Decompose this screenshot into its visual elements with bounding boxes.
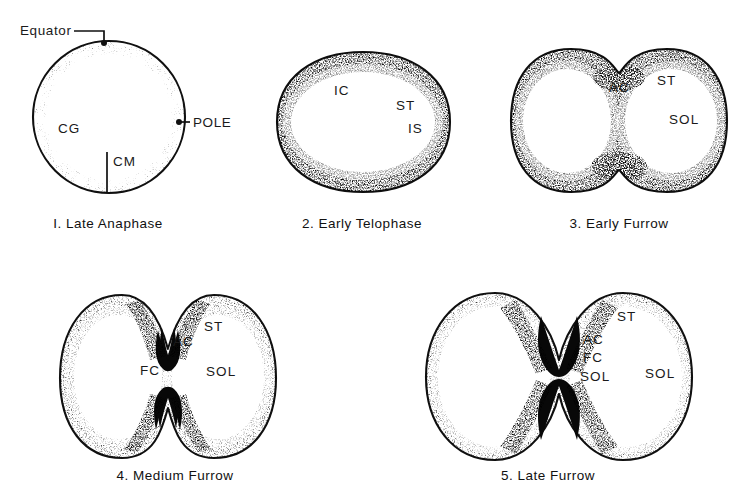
panel-5-caption: 5. Late Furrow (501, 468, 595, 483)
panel-3-label-sol: SOL (669, 112, 699, 127)
equator-anchor-dot (101, 40, 107, 46)
panel-2: IC ST IS 2. Early Telophase (270, 45, 460, 231)
panel-2-cortical-stipple (270, 45, 460, 200)
panel-1-cortical-stipple (33, 41, 185, 193)
equator-label: Equator (20, 23, 71, 38)
pole-anchor-dot (176, 119, 182, 125)
panel-5-label-sol-inner: SOL (580, 369, 610, 384)
panel-1-label-cm: CM (113, 154, 136, 169)
panel-5-label-ac: AC (583, 332, 604, 347)
panel-3: AC ST SOL 3. Early Furrow (505, 42, 735, 231)
panel-3-cortical-stipple (505, 42, 735, 200)
equator-leader-line (74, 31, 104, 42)
panel-1-caption: I. Late Anaphase (53, 216, 162, 231)
panel-4-caption: 4. Medium Furrow (117, 468, 234, 483)
panel-2-caption: 2. Early Telophase (302, 216, 422, 231)
panel-5-label-sol-outer: SOL (645, 366, 675, 381)
panel-3-caption: 3. Early Furrow (569, 216, 668, 231)
panel-4-label-ac: AC (173, 334, 194, 349)
panel-3-label-ac: AC (609, 80, 630, 95)
panel-5: ST AC FC SOL SOL 5. Late Furrow (420, 286, 698, 483)
panel-1-label-cg: CG (58, 121, 80, 136)
panel-5-label-st: ST (617, 309, 636, 324)
pole-label: POLE (193, 115, 231, 130)
panel-1: Equator POLE CG CM I. Late Anaphase (20, 23, 231, 231)
panel-4-label-fc: FC (140, 363, 160, 378)
figure-canvas: Equator POLE CG CM I. Late Anaphase IC (0, 0, 742, 502)
cytokinesis-figure: Equator POLE CG CM I. Late Anaphase IC (0, 0, 742, 502)
panel-4-label-sol: SOL (206, 364, 236, 379)
panel-5-label-fc: FC (583, 350, 603, 365)
panel-2-label-is: IS (408, 121, 423, 136)
panel-2-label-ic: IC (334, 83, 350, 98)
panel-2-label-st: ST (396, 98, 415, 113)
panel-4-label-st: ST (204, 319, 223, 334)
panel-4: AC ST FC SOL 4. Medium Furrow (55, 288, 281, 483)
panel-3-label-st: ST (657, 73, 676, 88)
panel-4-cortical-stipple (55, 288, 281, 464)
